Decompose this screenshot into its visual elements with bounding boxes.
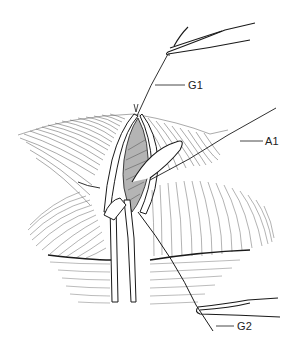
upper-tissue-hatching bbox=[18, 114, 228, 205]
label-a1: A1 bbox=[265, 136, 279, 147]
suture-g1 bbox=[136, 54, 168, 118]
suture-a1 bbox=[150, 108, 276, 180]
central-instrument bbox=[104, 198, 136, 302]
surgical-drawing bbox=[0, 0, 293, 349]
illustration-canvas: G1 A1 G2 bbox=[0, 0, 293, 349]
lower-forceps bbox=[196, 298, 280, 317]
suture-g2 bbox=[138, 212, 213, 331]
tissue-base-line bbox=[48, 250, 250, 260]
upper-forceps bbox=[166, 23, 255, 55]
label-g1: G1 bbox=[188, 80, 203, 91]
label-g2: G2 bbox=[237, 321, 252, 332]
